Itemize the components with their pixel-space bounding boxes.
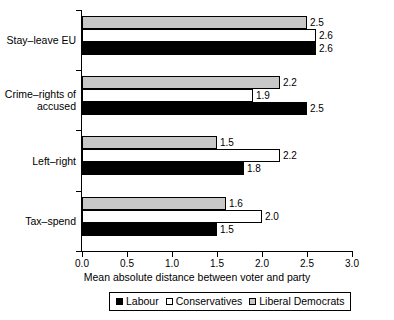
- category-label-crime-rights-of-accused: Crime–rights of accused: [5, 88, 76, 112]
- bar-cons-tax-spend: [82, 210, 262, 223]
- bar-libdem-left-right: [82, 136, 217, 149]
- value-axis-tick-label: 1.0: [152, 258, 192, 270]
- bar-value-label: 2.6: [319, 42, 333, 55]
- bar-value-label: 1.6: [229, 197, 243, 210]
- value-axis-tick: [217, 252, 218, 257]
- bar-labour-left-right: [82, 162, 244, 175]
- bar-libdem-tax-spend: [82, 197, 226, 210]
- bar-value-label: 1.5: [220, 223, 234, 236]
- value-axis-tick: [172, 252, 173, 257]
- value-axis-tick: [82, 252, 83, 257]
- bar-value-label: 2.2: [283, 149, 297, 162]
- value-axis-tick: [307, 252, 308, 257]
- legend: Labour Conservatives Liberal Democrats: [109, 292, 351, 311]
- value-axis-tick-label: 3.0: [332, 258, 372, 270]
- legend-entry-liberal-democrats: Liberal Democrats: [249, 295, 344, 307]
- legend-label-conservatives: Conservatives: [176, 295, 243, 307]
- value-axis-tick-label: 1.5: [197, 258, 237, 270]
- category-label-stay-leave-eu: Stay–leave EU: [7, 34, 76, 46]
- bar-chart: Stay–leave EU Crime–rights of accused Le…: [0, 0, 394, 320]
- legend-label-liberal-democrats: Liberal Democrats: [259, 295, 344, 307]
- bar-libdem-crime-rights: [82, 76, 280, 89]
- category-label-left-right: Left–right: [32, 155, 76, 167]
- legend-entry-labour: Labour: [116, 295, 159, 307]
- legend-entry-conservatives: Conservatives: [166, 295, 243, 307]
- bar-cons-crime-rights: [82, 89, 253, 102]
- bar-value-label: 2.5: [310, 16, 324, 29]
- value-axis-tick: [262, 252, 263, 257]
- bar-labour-tax-spend: [82, 223, 217, 236]
- plot-area: 2.5 2.6 2.6 2.2 1.9 2.5 1.5 2.2 1.8 1.6 …: [82, 10, 352, 250]
- bar-value-label: 2.0: [265, 210, 279, 223]
- value-axis-tick-label: 0.5: [107, 258, 147, 270]
- bar-value-label: 2.5: [310, 102, 324, 115]
- bar-value-label: 1.8: [247, 162, 261, 175]
- bar-value-label: 2.2: [283, 76, 297, 89]
- legend-label-labour: Labour: [126, 295, 159, 307]
- bar-cons-stay-leave-eu: [82, 29, 316, 42]
- category-label-tax-spend: Tax–spend: [25, 215, 76, 227]
- legend-swatch-conservatives-icon: [166, 298, 173, 305]
- bar-value-label: 2.6: [319, 29, 333, 42]
- value-axis-tick-label: 2.5: [287, 258, 327, 270]
- legend-swatch-labour-icon: [116, 298, 123, 305]
- value-axis-tick: [352, 252, 353, 257]
- value-axis-tick-label: 0.0: [62, 258, 102, 270]
- bar-value-label: 1.9: [256, 89, 270, 102]
- bar-labour-crime-rights: [82, 102, 307, 115]
- bar-cons-left-right: [82, 149, 280, 162]
- value-axis-tick-label: 2.0: [242, 258, 282, 270]
- x-axis-title: Mean absolute distance between voter and…: [0, 271, 394, 283]
- legend-swatch-liberal-democrats-icon: [249, 298, 256, 305]
- value-axis-tick: [127, 252, 128, 257]
- bar-value-label: 1.5: [220, 136, 234, 149]
- bar-labour-stay-leave-eu: [82, 42, 316, 55]
- bar-libdem-stay-leave-eu: [82, 16, 307, 29]
